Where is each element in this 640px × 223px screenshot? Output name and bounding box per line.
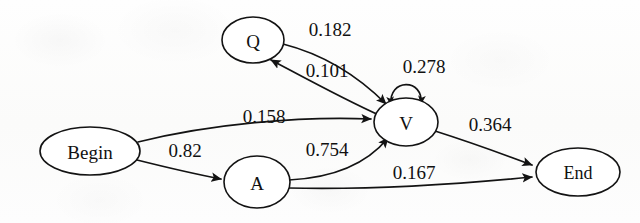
node-a-label: A xyxy=(250,173,264,194)
edge-label-v-self-loop: 0.278 xyxy=(403,56,446,77)
state-transition-graph: Begin Q A V End 0.182 0.101 0.278 0.158 … xyxy=(0,0,640,223)
node-q-label: Q xyxy=(246,31,260,52)
node-end-label: End xyxy=(564,163,593,183)
edge-v-to-end xyxy=(435,131,532,165)
edge-label-v-to-end: 0.364 xyxy=(469,114,512,135)
edge-label-begin-to-a: 0.82 xyxy=(168,140,201,161)
node-q[interactable]: Q xyxy=(222,17,284,63)
diagram-canvas: Begin Q A V End 0.182 0.101 0.278 0.158 … xyxy=(0,0,640,223)
edge-label-a-to-v: 0.754 xyxy=(306,139,349,160)
node-end[interactable]: End xyxy=(536,148,620,196)
node-begin-label: Begin xyxy=(67,142,113,163)
node-v[interactable]: V xyxy=(374,98,438,146)
edge-label-a-to-end: 0.167 xyxy=(393,162,436,183)
edge-label-q-to-v: 0.182 xyxy=(309,19,352,40)
node-v-label: V xyxy=(399,113,413,134)
edge-label-v-to-q: 0.101 xyxy=(306,60,349,81)
node-begin[interactable]: Begin xyxy=(40,127,140,175)
edge-begin-to-a xyxy=(137,160,221,179)
node-a[interactable]: A xyxy=(224,156,290,208)
edge-label-begin-to-v: 0.158 xyxy=(243,106,286,127)
